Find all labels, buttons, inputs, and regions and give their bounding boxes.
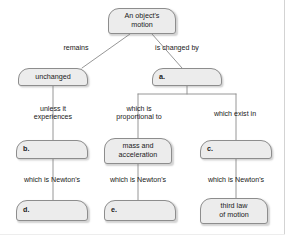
edge-label-is-changed-by: is changed by xyxy=(144,44,210,52)
node-a[interactable]: a. xyxy=(152,68,222,86)
edge-label-newtons-left: which is Newton's xyxy=(14,176,90,184)
node-e[interactable]: e. xyxy=(104,200,176,221)
node-thirdlaw: third law of motion xyxy=(200,198,268,224)
node-label: unchanged xyxy=(35,73,71,82)
node-unchanged: unchanged xyxy=(18,68,88,86)
edge-label-newtons-right: which is Newton's xyxy=(198,176,274,184)
node-label: An object's motion xyxy=(125,12,160,29)
node-label: third law of motion xyxy=(219,202,249,219)
node-label: b. xyxy=(23,145,29,154)
page-border-bottom xyxy=(0,234,285,235)
edge-label-newtons-mid: which is Newton's xyxy=(100,176,176,184)
node-root: An object's motion xyxy=(108,8,176,34)
node-label: e. xyxy=(111,206,117,215)
node-mass: mass and acceleration xyxy=(104,138,172,164)
edge-label-which-exist-in: which exist in xyxy=(204,110,266,118)
node-b[interactable]: b. xyxy=(16,140,88,159)
node-d[interactable]: d. xyxy=(16,200,88,221)
node-label: d. xyxy=(23,206,29,215)
concept-map-diagram: An object's motionunchangeda.b.mass and … xyxy=(0,0,285,235)
page-border-right xyxy=(284,0,285,235)
node-label: a. xyxy=(159,73,165,82)
node-label: mass and acceleration xyxy=(119,142,158,159)
node-c[interactable]: c. xyxy=(200,140,272,159)
edge-label-proportional: which is proportional to xyxy=(108,105,170,122)
edge-label-unless-it: unless it experiences xyxy=(24,105,82,122)
edge-label-remains: remains xyxy=(48,44,104,52)
node-label: c. xyxy=(207,145,213,154)
